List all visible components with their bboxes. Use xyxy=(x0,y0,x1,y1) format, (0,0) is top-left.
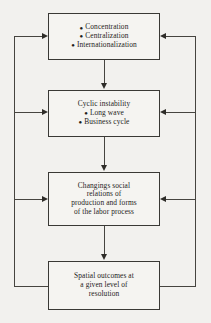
list-item-label: Business cycle xyxy=(84,117,129,126)
flowchart-diagram: ●Concentration ●Centralization ●Internat… xyxy=(0,0,211,323)
feedback-left-spine xyxy=(14,36,15,287)
list-item-label: Long wave xyxy=(90,108,124,117)
bullet-icon: ● xyxy=(71,42,75,48)
list-item: ●Internationalization xyxy=(71,41,137,50)
list-item-label: Concentration xyxy=(85,22,128,31)
feedback-right-branch-to-node1 xyxy=(166,36,196,37)
connector-node3-to-node4-arrow xyxy=(101,254,107,260)
connector-node1-to-node2-line xyxy=(104,60,105,84)
bullet-icon: ● xyxy=(79,119,83,125)
connector-node1-to-node2-arrow xyxy=(101,83,107,89)
feedback-left-branch-to-node1 xyxy=(14,36,43,37)
list-item: ●Business cycle xyxy=(79,118,130,127)
feedback-left-exit-from-node4 xyxy=(14,286,48,287)
feedback-right-arrow-to-node1 xyxy=(160,33,166,39)
connector-node2-to-node3-line xyxy=(104,137,105,166)
feedback-left-branch-to-node2 xyxy=(14,112,43,113)
node-cyclic-instability: Cyclic instability ●Long wave ●Business … xyxy=(48,90,160,137)
feedback-left-branch-to-node3 xyxy=(14,199,43,200)
feedback-right-arrow-to-node3 xyxy=(160,196,166,202)
connector-node2-to-node3-arrow xyxy=(101,165,107,171)
node-cyclic-instability-bullets: ●Long wave ●Business cycle xyxy=(79,109,130,126)
feedback-right-spine xyxy=(195,36,196,287)
feedback-right-exit-from-node4 xyxy=(160,286,196,287)
node-concentration-bullets: ●Concentration ●Centralization ●Internat… xyxy=(71,23,137,49)
bullet-icon: ● xyxy=(80,25,84,31)
list-item-label: Internationalization xyxy=(77,40,137,49)
node-spatial-outcomes: Spatial outcomes at a given level of res… xyxy=(48,261,160,310)
node-concentration: ●Concentration ●Centralization ●Internat… xyxy=(48,13,160,60)
feedback-right-arrow-to-node2 xyxy=(160,109,166,115)
node-text-line: resolution xyxy=(89,290,120,299)
list-item-label: Centralization xyxy=(85,31,128,40)
feedback-right-branch-to-node3 xyxy=(166,199,196,200)
bullet-icon: ● xyxy=(79,33,83,39)
node-changing-social-relations: Changings social relations of production… xyxy=(48,172,160,226)
bullet-icon: ● xyxy=(84,110,88,116)
connector-node3-to-node4-line xyxy=(104,226,105,255)
node-text-line: of the labor process xyxy=(74,208,134,217)
feedback-right-branch-to-node2 xyxy=(166,112,196,113)
